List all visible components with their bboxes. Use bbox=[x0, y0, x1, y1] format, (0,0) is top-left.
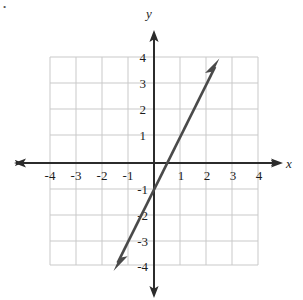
graph-canvas: x y -4 -3 -2 -1 1 2 3 4 4 3 2 1 -1 -2 -3… bbox=[0, 0, 303, 300]
coordinate-plane-figure: x y -4 -3 -2 -1 1 2 3 4 4 3 2 1 -1 -2 -3… bbox=[0, 0, 303, 300]
line-y-equals-2x-minus-1 bbox=[118, 67, 216, 263]
x-tick-label: -3 bbox=[71, 168, 82, 183]
plotted-line-series bbox=[114, 58, 220, 271]
x-tick-label: 3 bbox=[230, 168, 237, 183]
x-tick-label: 4 bbox=[256, 168, 263, 183]
x-tick-label: 1 bbox=[178, 168, 185, 183]
y-tick-label: 1 bbox=[140, 128, 147, 143]
x-tick-label: -2 bbox=[97, 168, 108, 183]
y-tick-label: -1 bbox=[137, 182, 148, 197]
y-axis-label: y bbox=[144, 6, 152, 21]
y-tick-label: 4 bbox=[140, 50, 147, 65]
y-tick-label: -4 bbox=[137, 259, 148, 274]
y-tick-label: 2 bbox=[140, 102, 147, 117]
x-tick-label: -1 bbox=[123, 168, 134, 183]
y-tick-label: 3 bbox=[140, 76, 147, 91]
x-axis-label: x bbox=[285, 156, 292, 171]
x-tick-label: -4 bbox=[45, 168, 56, 183]
y-tick-label: -3 bbox=[137, 234, 148, 249]
x-tick-label: 2 bbox=[204, 168, 211, 183]
corner-artifact-mark: • bbox=[3, 2, 6, 12]
